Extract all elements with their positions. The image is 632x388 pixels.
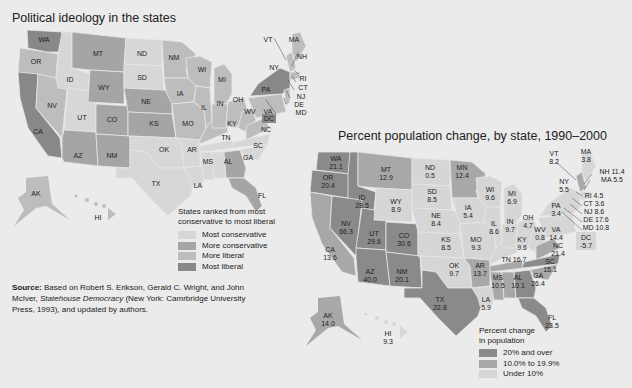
svg-text:MA: MA <box>581 148 592 155</box>
svg-text:NJ 8.6: NJ 8.6 <box>584 208 604 215</box>
svg-text:VA: VA <box>552 226 561 233</box>
svg-text:LA: LA <box>482 296 491 303</box>
svg-text:WI: WI <box>198 66 207 73</box>
svg-text:3.8: 3.8 <box>581 156 591 163</box>
svg-text:DC: DC <box>264 115 274 122</box>
svg-text:NM: NM <box>169 54 180 61</box>
svg-text:ND: ND <box>137 50 147 57</box>
svg-text:IL: IL <box>201 104 207 111</box>
svg-text:WV: WV <box>534 226 546 233</box>
svg-text:5.4: 5.4 <box>463 212 473 219</box>
svg-text:4.7: 4.7 <box>523 222 533 229</box>
svg-text:MS: MS <box>493 274 504 281</box>
right-map-legend: Percent change in population 20% and ove… <box>479 326 559 380</box>
svg-text:DE 17.6: DE 17.6 <box>583 216 608 223</box>
svg-text:NH 11.4: NH 11.4 <box>599 168 624 175</box>
svg-text:FL: FL <box>548 314 556 321</box>
svg-text:10.5: 10.5 <box>491 282 505 289</box>
svg-text:SC: SC <box>253 142 263 149</box>
right-legend-title-2: in population <box>479 336 559 346</box>
svg-text:SC: SC <box>545 258 555 265</box>
svg-text:MA 5.5: MA 5.5 <box>601 176 623 183</box>
svg-text:9.3: 9.3 <box>383 338 393 345</box>
svg-text:8.5: 8.5 <box>441 244 451 251</box>
svg-text:IN: IN <box>217 100 224 107</box>
svg-text:8.5: 8.5 <box>427 196 437 203</box>
svg-text:AZ: AZ <box>366 268 376 275</box>
svg-text:MT: MT <box>93 50 104 57</box>
svg-text:DC: DC <box>581 234 591 241</box>
svg-text:FL: FL <box>258 192 266 199</box>
svg-text:UT: UT <box>369 230 379 237</box>
svg-text:ID: ID <box>359 194 366 201</box>
svg-text:MN: MN <box>457 164 468 171</box>
legend-item-20-and-over: 20% and over <box>479 348 559 359</box>
svg-text:5.9: 5.9 <box>481 304 491 311</box>
svg-text:14.0: 14.0 <box>321 320 335 327</box>
svg-text:29.6: 29.6 <box>367 238 381 245</box>
svg-text:VT: VT <box>550 150 560 157</box>
right-legend-title-1: Percent change <box>479 326 559 336</box>
svg-text:RI: RI <box>300 75 307 82</box>
left-map-title: Political ideology in the states <box>12 11 176 25</box>
svg-text:15.1: 15.1 <box>543 266 557 273</box>
svg-text:WY: WY <box>390 198 402 205</box>
svg-text:PA: PA <box>262 86 271 93</box>
svg-text:66.3: 66.3 <box>339 228 353 235</box>
svg-text:OR: OR <box>31 58 42 65</box>
svg-text:0.8: 0.8 <box>535 234 545 241</box>
svg-text:OH: OH <box>523 214 534 221</box>
svg-text:22.8: 22.8 <box>433 304 447 311</box>
svg-text:LA: LA <box>194 182 203 189</box>
svg-text:8.9: 8.9 <box>391 206 401 213</box>
source-citation: Source: Based on Robert S. Erikson, Gera… <box>12 282 262 315</box>
left-legend-title-2: conservative to most liberal <box>178 217 275 227</box>
svg-text:9.6: 9.6 <box>517 244 527 251</box>
svg-text:CT: CT <box>298 84 308 91</box>
svg-text:NE: NE <box>141 98 151 105</box>
svg-text:HI: HI <box>385 330 392 337</box>
svg-text:10.1: 10.1 <box>511 282 525 289</box>
svg-text:AZ: AZ <box>74 152 84 159</box>
svg-text:13.6: 13.6 <box>323 254 337 261</box>
legend-item-under-10: Under 10% <box>479 369 559 380</box>
svg-text:NC: NC <box>261 126 271 133</box>
svg-text:NE: NE <box>431 212 441 219</box>
svg-text:TN 16.7: TN 16.7 <box>502 256 527 263</box>
svg-text:OR: OR <box>323 174 334 181</box>
svg-text:PA: PA <box>552 202 561 209</box>
svg-text:TX: TX <box>436 296 445 303</box>
svg-text:AR: AR <box>475 262 485 269</box>
svg-text:MA: MA <box>289 36 300 43</box>
svg-text:WI: WI <box>486 186 495 193</box>
svg-text:HI: HI <box>95 214 102 221</box>
svg-text:UT: UT <box>77 114 87 121</box>
svg-text:MT: MT <box>381 166 392 173</box>
svg-text:NV: NV <box>341 220 351 227</box>
svg-text:20.4: 20.4 <box>321 182 335 189</box>
svg-text:TX: TX <box>152 180 161 187</box>
svg-text:8.4: 8.4 <box>431 220 441 227</box>
svg-text:8.2: 8.2 <box>549 158 559 165</box>
svg-text:AL: AL <box>224 158 233 165</box>
svg-text:12.9: 12.9 <box>379 174 393 181</box>
label-WA: WA <box>38 36 49 43</box>
svg-text:GA: GA <box>243 154 253 161</box>
svg-text:SD: SD <box>137 74 147 81</box>
svg-text:VA: VA <box>264 108 273 115</box>
left-map-legend: States ranked from most conservative to … <box>178 207 275 272</box>
svg-text:9.3: 9.3 <box>471 244 481 251</box>
svg-text:CA: CA <box>325 246 335 253</box>
svg-text:20.1: 20.1 <box>395 276 409 283</box>
svg-text:KY: KY <box>227 120 237 127</box>
svg-text:OK: OK <box>159 146 169 153</box>
svg-text:IN: IN <box>507 218 514 225</box>
svg-text:WA: WA <box>330 155 341 162</box>
svg-text:IL: IL <box>491 220 497 227</box>
svg-text:OK: OK <box>449 262 459 269</box>
svg-text:NV: NV <box>47 102 57 109</box>
svg-text:MI: MI <box>218 76 226 83</box>
svg-text:6.9: 6.9 <box>507 198 517 205</box>
svg-text:MD 10.8: MD 10.8 <box>583 224 610 231</box>
svg-text:26.4: 26.4 <box>531 280 545 287</box>
